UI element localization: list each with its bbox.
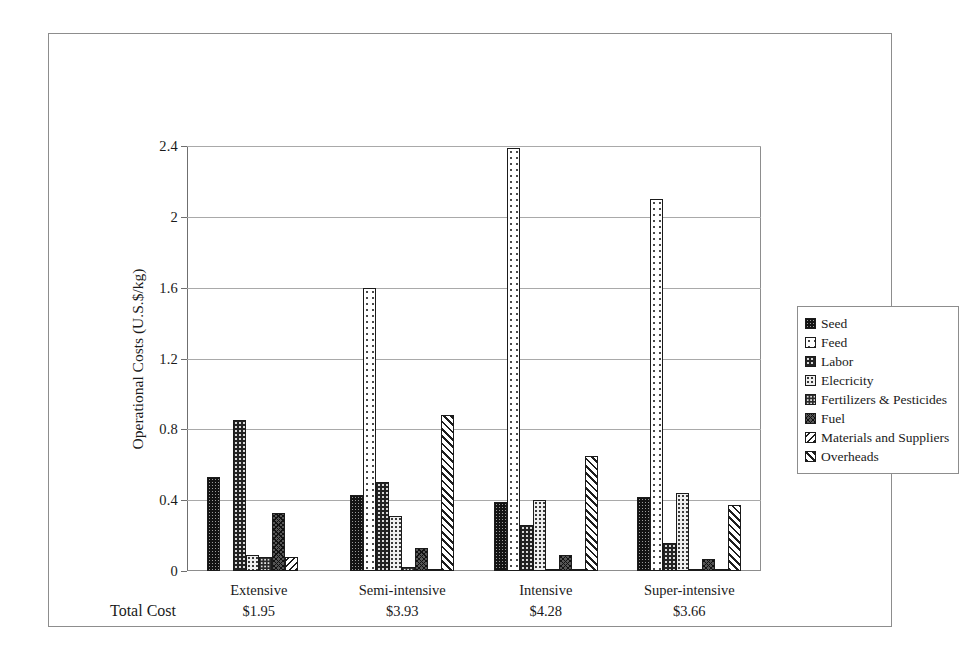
legend-swatch-icon: [805, 375, 816, 386]
x-category: Extensive$1.95: [187, 580, 331, 622]
bar[interactable]: [389, 516, 402, 571]
gridline: [187, 217, 761, 218]
legend-label: Fertilizers & Pesticides: [821, 390, 947, 409]
y-tick-mark: [181, 429, 187, 430]
legend-label: Labor: [821, 352, 853, 371]
bar[interactable]: [637, 497, 650, 571]
bar[interactable]: [702, 559, 715, 571]
legend-label: Elecricity: [821, 371, 873, 390]
bar[interactable]: [650, 199, 663, 571]
plot-wrapper: 00.40.81.21.622.4: [187, 146, 761, 571]
x-category-name: Semi-intensive: [331, 580, 475, 600]
gridline: [187, 429, 761, 430]
legend-item[interactable]: Elecricity: [805, 371, 949, 390]
y-axis-title: Operational Costs (U.S.$/kg): [127, 146, 149, 571]
legend-swatch-icon: [805, 318, 816, 329]
legend-swatch-icon: [805, 432, 816, 443]
y-tick-label: 2.4: [159, 138, 178, 155]
legend-item[interactable]: Labor: [805, 352, 949, 371]
legend-item[interactable]: Feed: [805, 333, 949, 352]
y-tick-mark: [181, 217, 187, 218]
bar[interactable]: [272, 513, 285, 571]
bar[interactable]: [663, 543, 676, 571]
bar[interactable]: [363, 288, 376, 571]
y-tick-mark: [181, 288, 187, 289]
legend-swatch-icon: [805, 356, 816, 367]
legend-swatch-icon: [805, 394, 816, 405]
bar[interactable]: [233, 420, 246, 571]
gridline: [187, 359, 761, 360]
x-axis-labels: Extensive$1.95Semi-intensive$3.93Intensi…: [187, 580, 761, 622]
y-tick-mark: [181, 359, 187, 360]
gridline: [187, 146, 761, 147]
bar[interactable]: [428, 569, 441, 571]
y-tick-mark: [181, 146, 187, 147]
x-category-total-cost: $3.93: [331, 600, 475, 622]
bar[interactable]: [441, 415, 454, 571]
y-tick-label: 1.2: [159, 350, 178, 367]
bar[interactable]: [533, 500, 546, 571]
legend-item[interactable]: Materials and Suppliers: [805, 428, 949, 447]
bar[interactable]: [350, 495, 363, 571]
legend-label: Feed: [821, 333, 847, 352]
legend-item[interactable]: Fertilizers & Pesticides: [805, 390, 949, 409]
bar[interactable]: [715, 569, 728, 571]
legend-label: Fuel: [821, 409, 845, 428]
total-cost-row-label: Total Cost: [110, 602, 176, 620]
y-tick-label: 0: [171, 563, 178, 580]
gridline: [187, 288, 761, 289]
y-tick-label: 0.4: [159, 492, 178, 509]
bar[interactable]: [520, 525, 533, 571]
legend-label: Seed: [821, 314, 847, 333]
x-category: Semi-intensive$3.93: [331, 580, 475, 622]
x-category: Intensive$4.28: [474, 580, 618, 622]
x-category-total-cost: $4.28: [474, 600, 618, 622]
legend-label: Materials and Suppliers: [821, 428, 949, 447]
chart-legend: SeedFeedLaborElecricityFertilizers & Pes…: [797, 306, 959, 474]
bar[interactable]: [572, 569, 585, 571]
y-tick-label: 2: [171, 208, 178, 225]
figure-frame: Operational Costs (U.S.$/kg) 00.40.81.21…: [48, 33, 892, 627]
legend-item[interactable]: Overheads: [805, 447, 949, 466]
gridline: [187, 500, 761, 501]
y-tick-mark: [181, 571, 187, 572]
bar[interactable]: [376, 482, 389, 571]
legend-swatch-icon: [805, 451, 816, 462]
legend-swatch-icon: [805, 413, 816, 424]
bar[interactable]: [689, 569, 702, 571]
bar[interactable]: [676, 493, 689, 571]
y-tick-label: 0.8: [159, 421, 178, 438]
bar[interactable]: [402, 567, 415, 571]
bar[interactable]: [507, 148, 520, 571]
bar[interactable]: [259, 557, 272, 571]
x-category-total-cost: $1.95: [187, 600, 331, 622]
bar[interactable]: [559, 555, 572, 571]
x-category: Super-intensive$3.66: [618, 580, 762, 622]
x-category-total-cost: $3.66: [618, 600, 762, 622]
bar[interactable]: [285, 557, 298, 571]
bar[interactable]: [207, 477, 220, 571]
y-axis-title-text: Operational Costs (U.S.$/kg): [129, 268, 147, 449]
legend-item[interactable]: Seed: [805, 314, 949, 333]
y-tick-label: 1.6: [159, 279, 178, 296]
x-category-name: Intensive: [474, 580, 618, 600]
bar[interactable]: [246, 555, 259, 571]
legend-label: Overheads: [821, 447, 879, 466]
bar[interactable]: [585, 456, 598, 571]
bar[interactable]: [494, 502, 507, 571]
legend-swatch-icon: [805, 337, 816, 348]
bar[interactable]: [728, 505, 741, 571]
bar[interactable]: [415, 548, 428, 571]
x-category-name: Extensive: [187, 580, 331, 600]
x-category-name: Super-intensive: [618, 580, 762, 600]
legend-item[interactable]: Fuel: [805, 409, 949, 428]
y-tick-mark: [181, 500, 187, 501]
bar[interactable]: [546, 569, 559, 571]
